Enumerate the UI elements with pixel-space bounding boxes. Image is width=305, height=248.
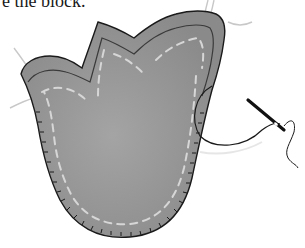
thread-shadow — [200, 142, 262, 154]
thread-tail — [284, 121, 298, 168]
needle-icon — [248, 100, 284, 130]
tulip-applique-illustration — [0, 0, 305, 248]
